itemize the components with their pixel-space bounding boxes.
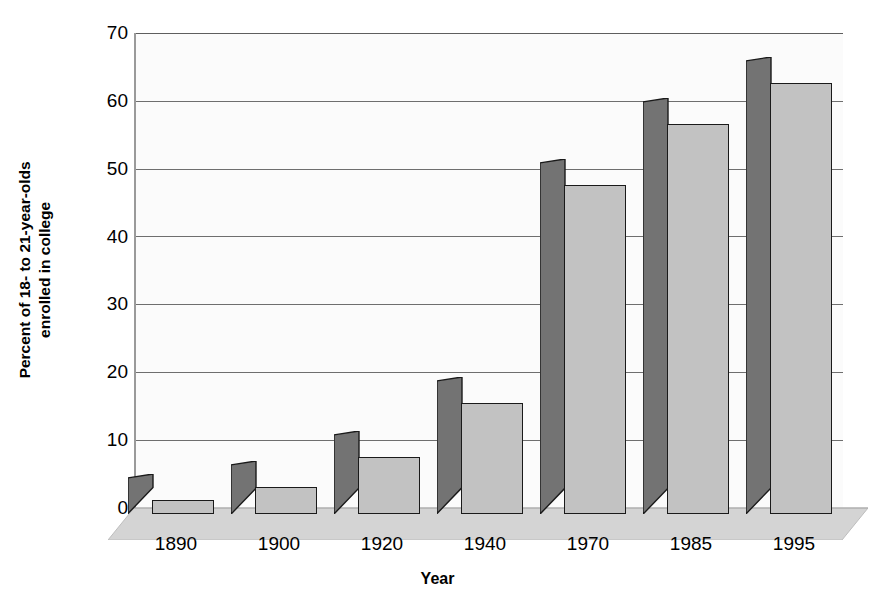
- y-tick-40: 40: [72, 226, 128, 248]
- x-tick-1890: 1890: [121, 533, 231, 555]
- y-tick-50: 50: [72, 158, 128, 180]
- bar-front-face-1985: [667, 124, 729, 514]
- bars-layer: [134, 33, 867, 540]
- bar-1995: [770, 57, 832, 514]
- x-tick-1995: 1995: [739, 533, 849, 555]
- y-axis-title-line1: Percent of 18- to 21-year-olds: [15, 161, 35, 378]
- x-tick-1970: 1970: [533, 533, 643, 555]
- bar-front-face-1920: [358, 457, 420, 514]
- y-tick-30: 30: [72, 293, 128, 315]
- y-tick-20: 20: [72, 361, 128, 383]
- y-tick-70: 70: [72, 22, 128, 44]
- bar-side-face-1985: [643, 98, 669, 514]
- bar-1985: [667, 98, 729, 514]
- bar-1890: [152, 474, 214, 514]
- x-axis-title: Year: [0, 570, 875, 588]
- bar-front-face-1890: [152, 500, 214, 514]
- bar-front-face-1970: [564, 185, 626, 514]
- y-axis-title: Percent of 18- to 21-year-olds enrolled …: [0, 0, 70, 540]
- bar-front-face-1940: [461, 403, 523, 514]
- bar-side-face-1940: [437, 377, 463, 514]
- bar-1940: [461, 377, 523, 514]
- y-tick-60: 60: [72, 90, 128, 112]
- bar-side-face-1900: [231, 461, 257, 514]
- bar-side-face-1970: [540, 159, 566, 514]
- x-tick-1900: 1900: [224, 533, 334, 555]
- bar-1970: [564, 159, 626, 514]
- x-tick-1920: 1920: [327, 533, 437, 555]
- bar-1900: [255, 461, 317, 514]
- bar-side-face-1890: [128, 474, 154, 514]
- x-tick-1985: 1985: [636, 533, 746, 555]
- bar-front-face-1995: [770, 83, 832, 514]
- bar-side-face-1995: [746, 57, 772, 514]
- y-tick-10: 10: [72, 429, 128, 451]
- bar-chart: Percent of 18- to 21-year-olds enrolled …: [0, 0, 875, 603]
- bar-front-face-1900: [255, 487, 317, 514]
- bar-side-face-1920: [334, 431, 360, 514]
- bar-1920: [358, 431, 420, 514]
- y-axis-title-line2: enrolled in college: [35, 161, 55, 378]
- x-tick-1940: 1940: [430, 533, 540, 555]
